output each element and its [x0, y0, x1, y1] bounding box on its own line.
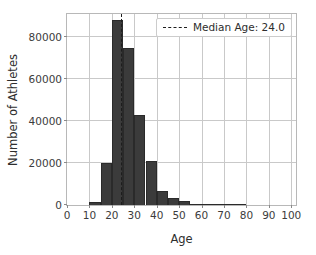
- x-tick-mark: [224, 205, 225, 208]
- x-tick-label: 20: [105, 209, 118, 221]
- y-axis-title-text: Number of Athletes: [6, 54, 20, 166]
- x-tick-label: 90: [262, 209, 275, 221]
- x-tick-label: 0: [64, 209, 71, 221]
- histogram-bar: [157, 191, 168, 205]
- x-tick-mark: [112, 205, 113, 208]
- y-tick-label: 60000: [29, 73, 62, 85]
- y-tick-label: 40000: [29, 115, 62, 127]
- x-tick-mark: [179, 205, 180, 208]
- histogram-bar: [202, 204, 213, 205]
- histogram-bar: [190, 204, 201, 205]
- x-tick-label: 40: [150, 209, 163, 221]
- y-tick-mark: [64, 78, 67, 79]
- x-tick-label: 100: [281, 209, 301, 221]
- histogram-bar: [179, 201, 190, 205]
- median-line: [121, 14, 122, 205]
- y-tick-label: 80000: [29, 31, 62, 43]
- x-tick-mark: [89, 205, 90, 208]
- legend: Median Age: 24.0: [156, 18, 292, 37]
- histogram-bar: [168, 198, 179, 205]
- y-tick-mark: [64, 120, 67, 121]
- histogram-bar: [146, 161, 157, 205]
- x-tick-label: 30: [128, 209, 141, 221]
- x-tick-label: 70: [217, 209, 230, 221]
- histogram-bar: [235, 204, 246, 205]
- x-tick-label: 10: [83, 209, 96, 221]
- histogram-bar: [213, 204, 224, 205]
- y-tick-mark: [64, 36, 67, 37]
- x-tick-label: 60: [195, 209, 208, 221]
- y-tick-label: 20000: [29, 157, 62, 169]
- y-tick-mark: [64, 162, 67, 163]
- x-tick-mark: [134, 205, 135, 208]
- histogram-figure: Number of Athletes 010203040506070809010…: [0, 0, 316, 255]
- histogram-bar: [134, 115, 145, 205]
- legend-dashed-line-icon: [163, 27, 187, 28]
- histogram-bar: [101, 163, 112, 205]
- plot-area: 0102030405060708090100 02000040000600008…: [66, 13, 297, 206]
- y-tick-label: 0: [55, 199, 62, 211]
- histogram-bar: [89, 202, 100, 205]
- x-tick-mark: [157, 205, 158, 208]
- x-tick-mark: [67, 205, 68, 208]
- y-axis-title: Number of Athletes: [6, 13, 20, 206]
- x-tick-label: 50: [172, 209, 185, 221]
- histogram-bar: [224, 204, 235, 205]
- x-tick-mark: [202, 205, 203, 208]
- y-tick-mark: [64, 204, 67, 205]
- x-tick-mark: [269, 205, 270, 208]
- histogram-bar: [123, 48, 134, 205]
- histogram-bars: [67, 14, 296, 205]
- x-tick-mark: [246, 205, 247, 208]
- x-axis-title-text: Age: [170, 232, 192, 246]
- legend-entry-label: Median Age: 24.0: [193, 21, 285, 33]
- x-axis-title: Age: [66, 232, 297, 246]
- x-tick-mark: [291, 205, 292, 208]
- x-tick-label: 80: [240, 209, 253, 221]
